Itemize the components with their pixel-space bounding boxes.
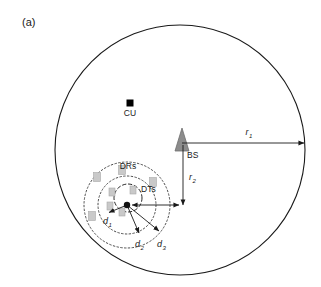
cu-marker[interactable]	[127, 100, 134, 107]
device-marker	[94, 173, 101, 182]
r1-radius-group: r1	[182, 127, 304, 143]
device-marker	[107, 202, 113, 210]
device-marker	[89, 212, 96, 221]
distance-arrows-group: d1 d2 d3	[103, 205, 167, 251]
bs-triangle-marker[interactable]	[175, 128, 189, 151]
cluster-hub-marker[interactable]	[124, 202, 130, 208]
cu-label: CU	[124, 108, 136, 118]
panel-label: (a)	[22, 16, 35, 28]
figure-container: (a) CU BS r	[0, 0, 321, 287]
drs-label: DRs	[120, 161, 137, 171]
d1-label: d1	[103, 216, 112, 228]
cu-node-group[interactable]: CU	[124, 100, 136, 119]
device-marker	[130, 186, 136, 194]
d3-label: d3	[157, 239, 167, 251]
cluster-hub-group[interactable]	[124, 202, 130, 208]
d3-arrow	[127, 205, 159, 231]
r1-label: r1	[246, 127, 253, 139]
device-marker	[119, 208, 125, 216]
d2-label: d2	[135, 239, 145, 251]
topology-diagram: (a) CU BS r	[0, 0, 321, 287]
panel-label-group: (a)	[22, 16, 35, 28]
device-marker	[109, 188, 115, 196]
dts-label: DTs	[141, 184, 156, 194]
bs-node-group[interactable]: BS	[175, 128, 199, 160]
r2-label: r2	[189, 172, 197, 184]
bs-label: BS	[187, 150, 199, 160]
